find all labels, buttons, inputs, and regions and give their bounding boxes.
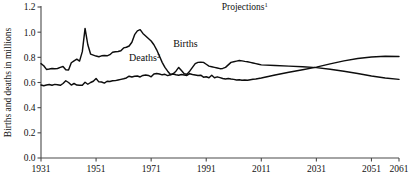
x-axis-tick-label: 2011 [252, 164, 271, 174]
line-chart-svg: 0.00.20.40.60.81.01.21931195119711991201… [0, 0, 416, 196]
x-axis-tick-label: 1931 [32, 164, 51, 174]
y-axis-tick-label: 1.0 [24, 28, 36, 38]
chart-container: 0.00.20.40.60.81.01.21931195119711991201… [0, 0, 416, 196]
y-axis-tick-label: 0.4 [24, 103, 36, 113]
x-axis-tick-label: 2061 [390, 164, 409, 174]
series-label-births: Births [173, 38, 198, 49]
y-axis-tick-label: 1.2 [24, 2, 36, 12]
x-axis-tick-label: 2031 [307, 164, 326, 174]
series-label-deaths: Deaths2 [129, 52, 160, 63]
y-axis-title: Births and deaths in millions [3, 28, 13, 138]
y-axis-tick-label: 0.0 [24, 153, 36, 163]
x-axis-tick-label: 2051 [362, 164, 381, 174]
y-axis-tick-label: 0.8 [24, 53, 36, 63]
y-axis-tick-label: 0.6 [24, 78, 36, 88]
projections-annotation: Projections1 [222, 1, 268, 12]
projections-annotation-superscript: 1 [265, 1, 268, 8]
series-line-births [41, 28, 399, 79]
x-axis-tick-label: 1991 [197, 164, 216, 174]
x-axis-tick-label: 1971 [142, 164, 161, 174]
series-label-superscript: 2 [157, 52, 160, 59]
x-axis-tick-label: 1951 [87, 164, 106, 174]
y-axis-tick-label: 0.2 [24, 128, 36, 138]
